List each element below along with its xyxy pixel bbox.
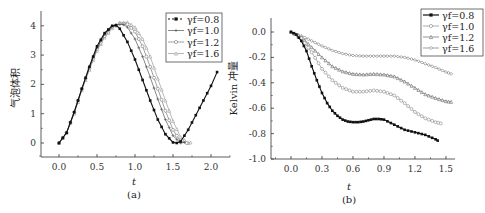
- legend-entry: γf=1.0: [442, 21, 474, 32]
- y-tick-label: 1: [30, 109, 36, 119]
- series-γf=1.0: [290, 31, 443, 125]
- y-tick-label: 2: [30, 79, 36, 89]
- y-tick-label: -0.4: [249, 78, 267, 88]
- x-tick-label: 0.0: [284, 164, 299, 174]
- y-tick-label: -0.6: [249, 103, 267, 113]
- panel-b-legend: γf=0.8γf=1.0γf=1.2γf=1.6: [421, 9, 483, 56]
- x-tick-label: 1.5: [439, 164, 454, 174]
- y-tick-label: -0.8: [249, 129, 267, 139]
- panel-b-y-ticks: 0.0-0.2-0.4-0.6-0.8-1.0: [249, 27, 274, 164]
- x-tick-label: 0.6: [346, 164, 361, 174]
- x-tick-label: 0.5: [90, 162, 105, 172]
- panel-a-y-axis-label: 气泡体积: [9, 68, 21, 108]
- legend-entry: γf=0.8: [442, 10, 474, 21]
- panel-a-x-axis-label: t: [132, 176, 137, 187]
- legend-entry: γf=1.6: [187, 48, 219, 59]
- y-tick-label: 4: [30, 21, 36, 31]
- x-tick-label: 0.3: [315, 164, 330, 174]
- panel-a-y-ticks: 01234: [30, 21, 44, 148]
- x-tick-label: 2.0: [204, 162, 219, 172]
- panel-a-legend: γf=0.8γf=1.0γf=1.2γf=1.6: [166, 13, 222, 62]
- panel-b-x-axis-label: t: [347, 181, 352, 192]
- legend-entry: γf=1.2: [187, 37, 219, 48]
- panel-b-caption: (b): [342, 194, 356, 205]
- x-tick-label: 0.0: [52, 162, 67, 172]
- figure: 0.00.51.01.52.0 01234 γf=0.8γf=1.0γf=1.2…: [0, 0, 485, 213]
- panel-b-chart: 0.00.30.60.91.21.5 0.0-0.2-0.4-0.6-0.8-1…: [227, 9, 483, 205]
- legend-entry: γf=0.8: [187, 14, 219, 25]
- panel-a-caption: (a): [127, 189, 141, 200]
- panel-a-chart: 0.00.51.01.52.0 01234 γf=0.8γf=1.0γf=1.2…: [9, 11, 230, 200]
- x-tick-label: 0.9: [377, 164, 392, 174]
- x-tick-label: 1.5: [166, 162, 181, 172]
- y-tick-label: 0.0: [252, 27, 267, 37]
- x-tick-label: 1.2: [408, 164, 422, 174]
- y-tick-label: -0.2: [249, 52, 266, 62]
- panel-b-y-axis-label: Kelvin 冲量: [227, 61, 239, 116]
- legend-entry: γf=1.0: [187, 25, 219, 36]
- y-tick-label: 0: [30, 138, 36, 148]
- legend-entry: γf=1.2: [442, 32, 474, 43]
- y-tick-label: -1.0: [249, 154, 267, 164]
- x-tick-label: 1.0: [128, 162, 143, 172]
- y-tick-label: 3: [30, 50, 36, 60]
- legend-entry: γf=1.6: [442, 43, 474, 54]
